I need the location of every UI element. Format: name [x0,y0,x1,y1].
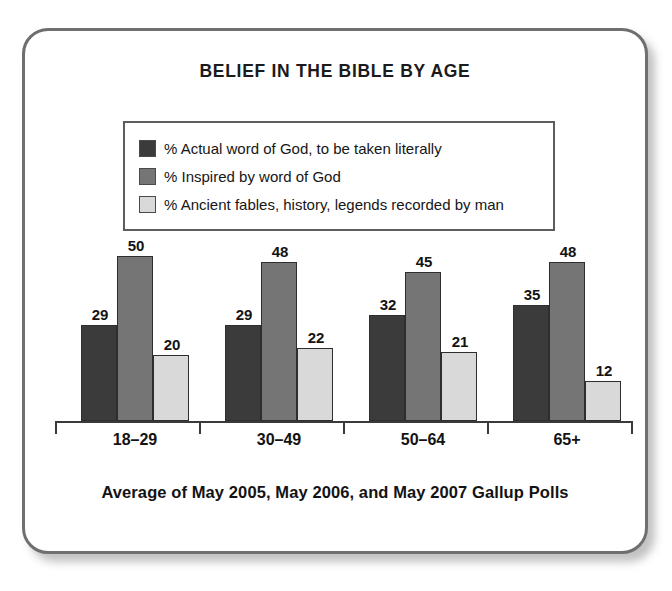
bar: 32 [369,315,405,421]
x-axis-labels: 18–29 30–49 50–64 65+ [37,431,639,455]
bar-value-label: 12 [584,362,624,379]
chart-footer-note: Average of May 2005, May 2006, and May 2… [25,483,645,502]
legend-item: % Actual word of God, to be taken litera… [139,134,540,162]
legend-item-label: % Inspired by word of God [164,169,341,184]
bar: 48 [261,262,297,421]
bar-group: 35 48 12 [513,249,621,421]
bar: 21 [441,352,477,421]
bar-group: 32 45 21 [369,249,477,421]
legend-item-label: % Actual word of God, to be taken litera… [164,141,442,156]
x-axis-tick-label: 65+ [497,431,637,449]
legend-item-label: % Ancient fables, history, legends recor… [164,197,504,212]
x-axis-tick-label: 18–29 [65,431,205,449]
chart-title: BELIEF IN THE BIBLE BY AGE [25,61,645,82]
legend-swatch-icon [139,140,156,157]
bar-value-label: 22 [296,329,336,346]
chart-frame: BELIEF IN THE BIBLE BY AGE % Actual word… [22,28,648,554]
bar-value-label: 50 [116,237,156,254]
bar-value-label: 48 [260,243,300,260]
bar-value-label: 29 [80,306,120,323]
bar: 35 [513,305,549,421]
bar-value-label: 20 [152,336,192,353]
plot-area: 29 50 20 29 48 22 32 45 [37,249,639,424]
bar-value-label: 48 [548,243,588,260]
chart-legend: % Actual word of God, to be taken litera… [123,121,555,231]
bar-value-label: 45 [404,253,444,270]
bar: 50 [117,256,153,421]
bar: 48 [549,262,585,421]
bar: 20 [153,355,189,421]
bar-value-label: 32 [368,296,408,313]
legend-swatch-icon [139,196,156,213]
bar-value-label: 21 [440,333,480,350]
bar: 45 [405,272,441,421]
legend-swatch-icon [139,168,156,185]
legend-item: % Inspired by word of God [139,162,540,190]
bar-group: 29 50 20 [81,249,189,421]
bar: 29 [81,325,117,421]
x-axis-tick-label: 50–64 [353,431,493,449]
bar: 29 [225,325,261,421]
bar: 12 [585,381,621,421]
bar-value-label: 35 [512,286,552,303]
bar-value-label: 29 [224,306,264,323]
bar-group: 29 48 22 [225,249,333,421]
x-axis-tick-label: 30–49 [209,431,349,449]
legend-item: % Ancient fables, history, legends recor… [139,190,540,218]
bar: 22 [297,348,333,421]
